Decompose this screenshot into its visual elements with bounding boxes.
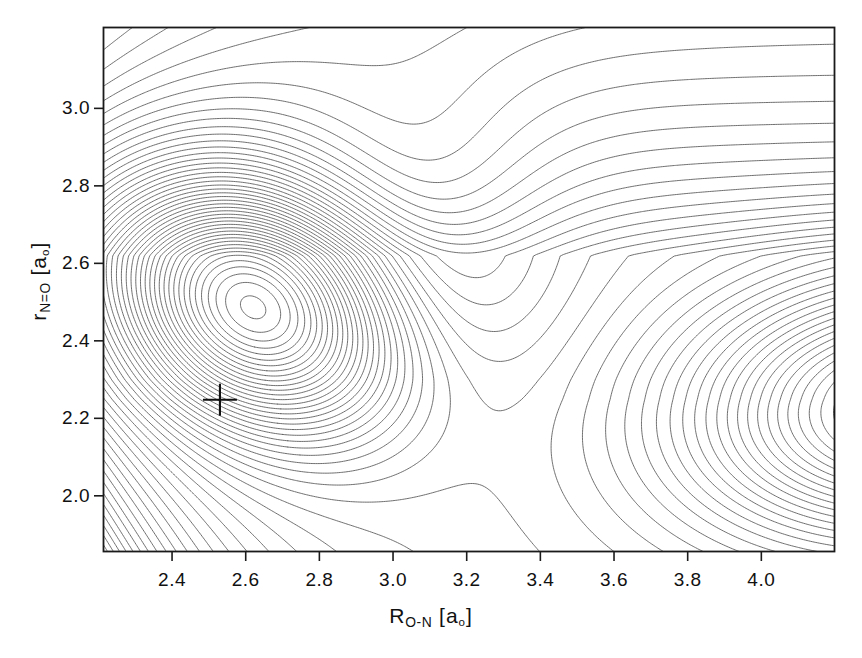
contour-line [103, 27, 311, 101]
contour-line [190, 252, 317, 366]
contour-line [809, 370, 835, 452]
x-axis-title-main: R [389, 604, 405, 627]
contour-line [821, 381, 835, 440]
x-tick-label: 4.0 [747, 569, 775, 591]
axis-ticks [94, 108, 761, 561]
x-axis-title-subscript: O-N [405, 614, 432, 630]
contour-line [758, 331, 835, 490]
x-tick-label: 3.4 [526, 569, 554, 591]
x-tick-label: 2.6 [232, 569, 260, 591]
x-axis-title: RO-N [ao] [0, 604, 862, 630]
y-tick-label: 3.0 [42, 97, 90, 119]
y-tick-label: 2.2 [42, 407, 90, 429]
contour-line [179, 245, 328, 376]
contour-line [103, 44, 835, 160]
x-tick-label: 3.6 [600, 569, 628, 591]
contour-line [103, 353, 414, 552]
contour-line [788, 353, 835, 469]
contour-line [103, 397, 247, 552]
contour-line [717, 305, 835, 517]
contour-figure: 2.42.62.83.03.23.43.63.84.0 2.02.22.42.6… [0, 0, 862, 658]
x-tick-label: 2.8 [305, 569, 333, 591]
contour-plot-canvas [0, 0, 862, 658]
contour-line [641, 258, 835, 552]
contour-lines [103, 27, 835, 552]
contour-line [226, 282, 281, 332]
y-axis-title-subscript: N=O [37, 282, 53, 312]
contour-line [103, 27, 169, 70]
contour-line [103, 101, 835, 199]
contour-line [778, 345, 835, 476]
x-tick-label: 2.4 [158, 569, 186, 591]
y-axis-title: rN=O [ao] [27, 181, 53, 381]
contour-line [103, 514, 126, 552]
contour-line [103, 482, 149, 552]
plot-border [104, 28, 835, 552]
contour-line [145, 221, 363, 409]
contour-line [103, 27, 588, 125]
contour-line [103, 134, 835, 224]
contour-line [103, 448, 177, 552]
contour-line [103, 141, 835, 235]
contour-line [683, 283, 835, 538]
contour-line [103, 158, 835, 278]
x-axis-unit-close: ] [466, 604, 473, 627]
contour-line [103, 459, 167, 552]
contour-line [103, 535, 114, 552]
x-axis-unit-subscript: o [459, 616, 466, 628]
x-axis-unit-open: [a [439, 604, 459, 627]
contour-line [103, 75, 835, 182]
x-tick-label: 3.2 [453, 569, 481, 591]
y-axis-unit-open: [a [27, 256, 50, 276]
contour-line [103, 168, 835, 332]
contour-line [103, 504, 133, 552]
contour-line [103, 27, 133, 50]
y-axis-title-main: r [27, 313, 50, 321]
contour-line [103, 147, 835, 244]
contour-line [695, 291, 835, 531]
contour-line [727, 311, 835, 509]
contour-line [150, 224, 358, 404]
contour-line [103, 27, 468, 114]
contour-line [103, 407, 229, 552]
plot-frame [104, 28, 835, 552]
contour-line [706, 298, 835, 524]
contour-line [606, 246, 835, 552]
y-axis-unit-close: ] [27, 242, 50, 249]
y-axis-unit-subscript: o [39, 249, 51, 256]
x-tick-label: 3.8 [674, 569, 702, 591]
y-tick-label: 2.0 [42, 485, 90, 507]
contour-line [240, 296, 265, 319]
contour-line [195, 255, 311, 360]
x-tick-label: 3.0 [379, 569, 407, 591]
contour-line [155, 228, 353, 400]
